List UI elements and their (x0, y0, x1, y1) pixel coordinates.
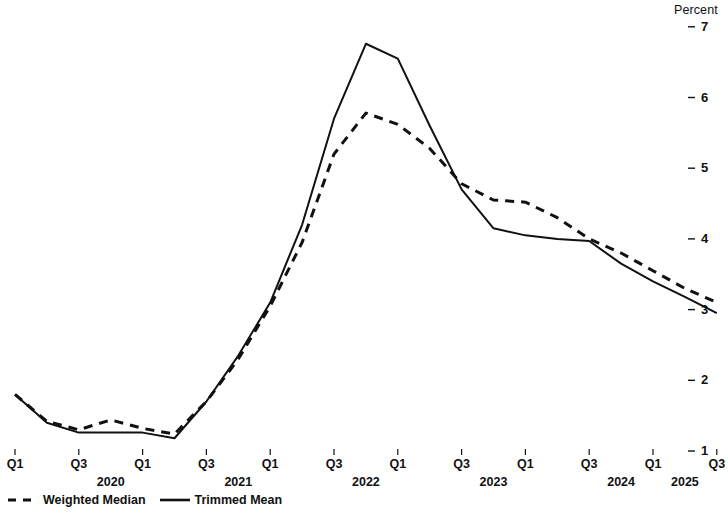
y-axis-tick-label: 4 (701, 231, 708, 246)
y-axis-tick-label: 2 (701, 372, 708, 387)
legend-item: Weighted Median (8, 494, 146, 507)
y-axis-tick-label: 3 (701, 302, 708, 317)
x-axis-year-label: 2024 (607, 475, 635, 489)
x-axis-tick-label: Q3 (326, 457, 343, 471)
x-axis-tick-label: Q3 (70, 457, 87, 471)
legend-dashed-line-icon (8, 494, 38, 506)
legend-label: Weighted Median (43, 494, 146, 507)
x-axis-year-label: 2020 (97, 475, 125, 489)
series-lines (15, 44, 717, 439)
y-axis-tick-label: 6 (701, 90, 708, 105)
chart-legend: Weighted MedianTrimmed Mean (8, 494, 282, 507)
x-axis-tick-label: Q1 (389, 457, 406, 471)
x-axis-tick-marks (15, 449, 717, 455)
x-axis-tick-label: Q1 (134, 457, 151, 471)
y-axis-tick-label: 5 (701, 160, 708, 175)
line-chart: Percent 1234567 Q1Q3Q1Q3Q1Q3Q1Q3Q1Q3Q1Q3… (0, 0, 728, 514)
x-axis-tick-label: Q1 (645, 457, 662, 471)
x-axis-tick-label: Q1 (7, 457, 24, 471)
x-axis-tick-label: Q1 (517, 457, 534, 471)
x-axis-year-label: 2021 (224, 475, 252, 489)
legend-item: Trimmed Mean (160, 494, 283, 507)
y-axis-tick-label: 1 (701, 443, 708, 458)
x-axis-tick-label: Q3 (453, 457, 470, 471)
x-axis-year-label: 2022 (352, 475, 380, 489)
x-axis-tick-label: Q1 (262, 457, 279, 471)
legend-solid-line-icon (160, 494, 190, 506)
x-axis-year-label: 2025 (671, 475, 699, 489)
plot-area (0, 0, 728, 514)
y-axis-tick-marks (688, 27, 695, 451)
x-axis-tick-label: Q3 (581, 457, 598, 471)
y-axis-tick-label: 7 (701, 19, 708, 34)
x-axis-tick-label: Q3 (198, 457, 215, 471)
legend-label: Trimmed Mean (195, 494, 283, 507)
series-line (15, 44, 717, 439)
series-line (15, 113, 717, 434)
x-axis-year-label: 2023 (480, 475, 508, 489)
x-axis-tick-label: Q3 (708, 457, 725, 471)
